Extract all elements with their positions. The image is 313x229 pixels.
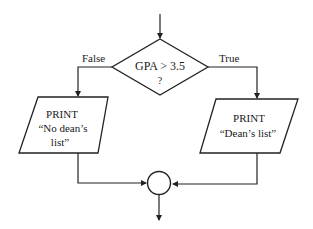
true-output-line1: PRINT [233, 112, 265, 124]
true-label: True [219, 52, 239, 64]
merge-connector-circle [148, 172, 171, 195]
true-merge-line [173, 153, 257, 184]
true-branch-line [208, 67, 257, 98]
true-output-parallelogram [200, 99, 298, 153]
false-branch-line [78, 67, 112, 96]
decision-text-line1: GPA > 3.5 [135, 59, 185, 73]
flowchart-diagram: GPA > 3.5 ? False True PRINT “No dean’s … [0, 0, 313, 229]
false-merge-line [78, 153, 146, 183]
true-output-line2: “Dean’s list” [220, 127, 277, 139]
false-label: False [82, 52, 105, 64]
false-output-line3: list” [51, 136, 69, 148]
false-output-line2: “No dean’s [38, 122, 87, 134]
decision-text-line2: ? [158, 75, 163, 86]
false-output-line1: PRINT [46, 108, 78, 120]
